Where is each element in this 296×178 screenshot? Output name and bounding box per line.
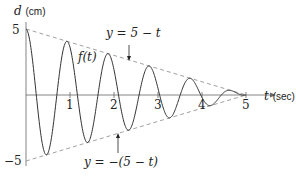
x-tick-label-3: 3	[154, 99, 162, 111]
x-axis-unit: (sec)	[273, 91, 295, 102]
x-tick-label-4: 4	[198, 99, 206, 111]
damped-oscillation-curve	[26, 29, 246, 155]
x-tick-label-1: 1	[66, 99, 74, 111]
y-axis-unit: (cm)	[26, 6, 46, 17]
lower-envelope-label: y = −(5 − t)	[84, 156, 158, 168]
upper-envelope-label: y = 5 − t	[106, 27, 161, 39]
curve-label: f(t)	[78, 51, 97, 63]
y-tick-bottom: −5	[4, 155, 22, 167]
y-axis-var: d	[14, 4, 22, 18]
y-tick-top: 5	[12, 24, 20, 36]
x-tick-label-2: 2	[110, 99, 118, 111]
y-axis-label: d (cm)	[14, 5, 46, 17]
x-axis-var: t	[264, 89, 269, 103]
x-tick-label-5: 5	[242, 99, 250, 111]
x-axis-label: t (sec)	[264, 90, 295, 102]
